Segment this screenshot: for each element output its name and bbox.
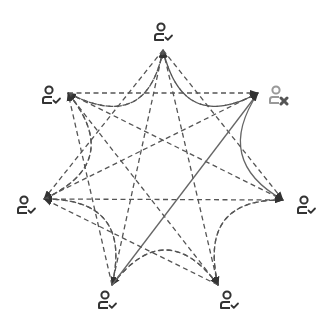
- edge-n0-to-n6: [68, 50, 163, 106]
- edge-n6-to-n0: [68, 50, 163, 106]
- check-mark-icon: [29, 209, 36, 213]
- user-check-icon: [152, 21, 174, 43]
- edge-n5-to-n4: [44, 199, 116, 285]
- edge-n0-to-n1: [163, 50, 258, 106]
- edge-n3-to-n2: [214, 200, 283, 285]
- check-mark-icon: [54, 99, 61, 103]
- network-diagram: [0, 0, 336, 329]
- node-n3[interactable]: [218, 289, 240, 311]
- edge-n3-to-n4: [112, 250, 218, 285]
- edge-n4-to-n3: [112, 250, 218, 285]
- user-check-icon: [15, 194, 37, 216]
- user-check-icon: [40, 84, 62, 106]
- node-n5[interactable]: [15, 194, 37, 216]
- x-mark-icon: [281, 98, 287, 104]
- user-x-icon: [267, 84, 289, 106]
- edge-n4-to-n5: [44, 199, 116, 285]
- edge-n6-to-n2: [68, 93, 283, 200]
- user-check-icon: [96, 289, 118, 311]
- edge-n2-to-n3: [214, 200, 283, 285]
- edge-n6-to-n5: [44, 93, 91, 199]
- check-mark-icon: [166, 36, 173, 40]
- edge-n5-to-n1: [44, 93, 258, 199]
- edge-n1-to-n2: [240, 93, 283, 200]
- edge-n0-to-n5: [44, 50, 163, 199]
- node-n4[interactable]: [96, 289, 118, 311]
- edge-n4-to-n1: [112, 93, 258, 285]
- user-check-icon: [295, 194, 317, 216]
- node-n1[interactable]: [267, 84, 289, 106]
- edge-n3-to-n5: [44, 199, 218, 285]
- check-mark-icon: [309, 209, 316, 213]
- check-mark-icon: [232, 304, 239, 308]
- check-mark-icon: [110, 304, 117, 308]
- node-n2[interactable]: [295, 194, 317, 216]
- edge-n5-to-n2: [44, 199, 283, 200]
- edge-n1-to-n0: [163, 50, 258, 106]
- edge-n0-to-n4: [112, 50, 163, 285]
- node-n6[interactable]: [40, 84, 62, 106]
- node-n0[interactable]: [152, 21, 174, 43]
- edges-layer: [0, 0, 336, 329]
- edge-n5-to-n6: [44, 93, 91, 199]
- user-check-icon: [218, 289, 240, 311]
